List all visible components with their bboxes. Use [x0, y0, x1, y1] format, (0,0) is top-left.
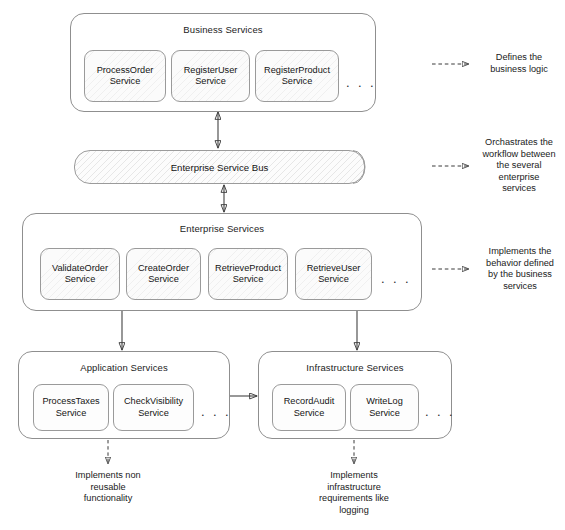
service-write-log[interactable]: WriteLog Service — [350, 384, 419, 431]
note-esb: Orchastrates the workflow between the se… — [474, 137, 564, 195]
layer-business-services[interactable]: Business Services ProcessOrder Service R… — [70, 13, 376, 112]
service-register-product-line1: RegisterProduct — [264, 65, 330, 76]
note-esb-line-5: services — [474, 183, 564, 195]
service-register-product[interactable]: RegisterProduct Service — [255, 50, 339, 102]
business-services-ellipsis: . . . — [346, 76, 376, 89]
note-esb-line-3: the several — [474, 160, 564, 172]
service-process-taxes-line1: ProcessTaxes — [42, 396, 99, 407]
infrastructure-services-ellipsis: . . . — [425, 405, 455, 418]
service-create-order-line1: CreateOrder — [138, 263, 189, 274]
service-process-order-line1: ProcessOrder — [97, 65, 154, 76]
note-enterprise-line-2: behavior defined — [476, 258, 564, 270]
service-create-order[interactable]: CreateOrder Service — [126, 248, 201, 300]
note-enterprise-line-3: by the business — [476, 269, 564, 281]
note-application-line-3: functionality — [41, 493, 175, 505]
note-enterprise-line-1: Implements the — [476, 246, 564, 258]
service-register-user-line2: Service — [184, 76, 238, 87]
note-business-line-1: Defines the — [476, 52, 562, 64]
service-register-user-line1: RegisterUser — [184, 65, 238, 76]
service-retrieve-user[interactable]: RetrieveUser Service — [295, 248, 372, 300]
service-write-log-line1: WriteLog — [366, 396, 403, 407]
service-process-taxes-line2: Service — [42, 408, 99, 419]
service-retrieve-product-line1: RetrieveProduct — [215, 263, 281, 274]
note-infrastructure-line-4: logging — [287, 505, 421, 517]
service-check-visibility[interactable]: CheckVisibility Service — [113, 384, 194, 431]
service-retrieve-user-line1: RetrieveUser — [307, 263, 361, 274]
service-retrieve-user-line2: Service — [307, 274, 361, 285]
service-retrieve-product[interactable]: RetrieveProduct Service — [208, 248, 288, 300]
enterprise-service-bus-label: Enterprise Service Bus — [74, 162, 365, 173]
note-esb-line-2: workflow between — [474, 149, 564, 161]
service-record-audit[interactable]: RecordAudit Service — [272, 384, 346, 431]
note-esb-line-4: enterprise — [474, 172, 564, 184]
note-application-line-1: Implements non — [41, 470, 175, 482]
service-validate-order-line2: Service — [52, 274, 108, 285]
note-enterprise-line-4: services — [476, 281, 564, 293]
enterprise-services-ellipsis: . . . — [381, 272, 411, 285]
service-record-audit-line2: Service — [284, 408, 335, 419]
service-retrieve-product-line2: Service — [215, 274, 281, 285]
layer-infrastructure-services-title: Infrastructure Services — [259, 362, 451, 373]
layer-application-services[interactable]: Application Services ProcessTaxes Servic… — [18, 351, 230, 439]
note-infrastructure-line-3: requirements like — [287, 493, 421, 505]
note-application: Implements non reusable functionality — [41, 470, 175, 505]
note-esb-line-1: Orchastrates the — [474, 137, 564, 149]
service-process-taxes[interactable]: ProcessTaxes Service — [33, 384, 109, 431]
enterprise-service-bus[interactable]: Enterprise Service Bus — [74, 150, 365, 184]
note-infrastructure-line-2: infrastructure — [287, 482, 421, 494]
service-check-visibility-line1: CheckVisibility — [124, 396, 183, 407]
layer-enterprise-services[interactable]: Enterprise Services ValidateOrder Servic… — [22, 213, 422, 311]
layer-enterprise-services-title: Enterprise Services — [23, 223, 421, 234]
note-infrastructure: Implements infrastructure requirements l… — [287, 470, 421, 516]
service-create-order-line2: Service — [138, 274, 189, 285]
service-write-log-line2: Service — [366, 408, 403, 419]
note-business-line-2: business logic — [476, 64, 562, 76]
service-record-audit-line1: RecordAudit — [284, 396, 335, 407]
note-business: Defines the business logic — [476, 52, 562, 75]
service-validate-order-line1: ValidateOrder — [52, 263, 108, 274]
service-check-visibility-line2: Service — [124, 408, 183, 419]
service-process-order-line2: Service — [97, 76, 154, 87]
service-register-user[interactable]: RegisterUser Service — [171, 50, 250, 102]
layer-infrastructure-services[interactable]: Infrastructure Services RecordAudit Serv… — [258, 351, 452, 439]
layer-business-services-title: Business Services — [71, 24, 375, 35]
note-application-line-2: reusable — [41, 482, 175, 494]
service-validate-order[interactable]: ValidateOrder Service — [40, 248, 120, 300]
layer-application-services-title: Application Services — [19, 362, 229, 373]
soa-architecture-diagram: ESB --> Enterprise Services --> — [0, 0, 565, 530]
application-services-ellipsis: . . . — [201, 405, 231, 418]
service-register-product-line2: Service — [264, 76, 330, 87]
note-infrastructure-line-1: Implements — [287, 470, 421, 482]
note-enterprise: Implements the behavior defined by the b… — [476, 246, 564, 292]
service-process-order[interactable]: ProcessOrder Service — [84, 50, 166, 102]
